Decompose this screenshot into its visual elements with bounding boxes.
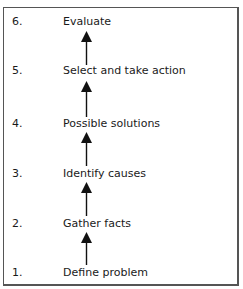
- arrow-up-icon: [81, 182, 92, 216]
- step-6-label: Evaluate: [63, 15, 111, 29]
- step-2-number: 2.: [12, 217, 23, 231]
- arrow-up-icon: [81, 132, 92, 166]
- step-2-label: Gather facts: [63, 217, 131, 231]
- step-1-number: 1.: [12, 266, 23, 280]
- step-3-label: Identify causes: [63, 167, 146, 181]
- step-3-number: 3.: [12, 167, 23, 181]
- arrow-up-icon: [81, 232, 92, 265]
- diagram-frame: [3, 7, 239, 286]
- step-6-number: 6.: [12, 15, 23, 29]
- step-4-label: Possible solutions: [63, 117, 160, 131]
- step-5-number: 5.: [12, 64, 23, 78]
- step-1-label: Define problem: [63, 266, 148, 280]
- arrow-up-icon: [81, 81, 92, 117]
- arrow-up-icon: [81, 31, 92, 65]
- step-4-number: 4.: [12, 117, 23, 131]
- step-5-label: Select and take action: [63, 64, 186, 78]
